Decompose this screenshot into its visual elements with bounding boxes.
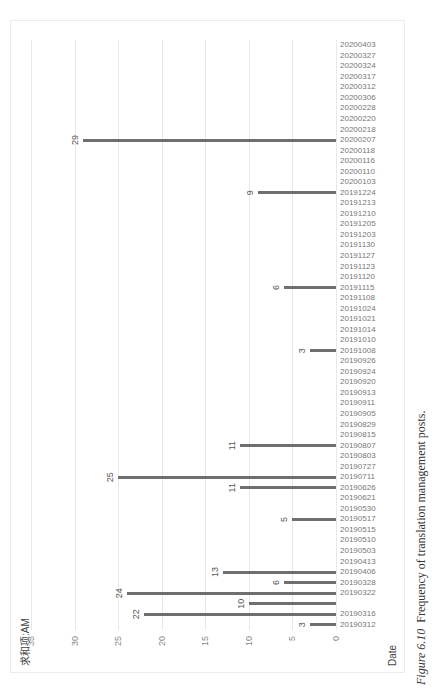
x-tick-label: 20191213 bbox=[340, 198, 376, 207]
gridline bbox=[205, 40, 206, 630]
gridline bbox=[118, 40, 119, 630]
gridline bbox=[31, 40, 32, 630]
bar-value-label: 5 bbox=[279, 517, 289, 522]
y-tick-label: 0 bbox=[331, 636, 341, 641]
x-tick-label: 20200324 bbox=[340, 61, 376, 70]
plot-area: 0510152025303532019031222201903161024201… bbox=[31, 40, 336, 630]
bar bbox=[284, 286, 336, 289]
x-tick-label: 20190621 bbox=[340, 493, 376, 502]
bar bbox=[83, 139, 336, 142]
x-tick-label: 20191127 bbox=[340, 251, 375, 260]
x-tick-label: 20200116 bbox=[340, 156, 375, 165]
y-tick-label: 35 bbox=[26, 636, 36, 646]
x-tick-label: 20191120 bbox=[340, 272, 375, 281]
chart-stage: 求和项:AM Post counts 051015202530353201903… bbox=[10, 20, 405, 673]
x-tick-label: 20200306 bbox=[340, 93, 376, 102]
x-tick-label: 20190406 bbox=[340, 567, 376, 576]
bar-value-label: 13 bbox=[210, 567, 220, 577]
x-tick-label: 20191010 bbox=[340, 335, 376, 344]
x-tick-label: 20191205 bbox=[340, 219, 376, 228]
x-tick-label: 20191224 bbox=[340, 188, 376, 197]
bar-value-label: 6 bbox=[271, 285, 281, 290]
bar bbox=[118, 476, 336, 479]
x-tick-label: 20200327 bbox=[340, 51, 376, 60]
bar-value-label: 25 bbox=[105, 472, 115, 482]
x-tick-label: 20200103 bbox=[340, 177, 376, 186]
gridline bbox=[162, 40, 163, 630]
x-tick-label: 20190711 bbox=[340, 472, 375, 481]
bar-value-label: 11 bbox=[227, 441, 237, 450]
bar-value-label: 22 bbox=[131, 609, 141, 619]
bar-value-label: 3 bbox=[297, 622, 307, 627]
bar-value-label: 3 bbox=[297, 348, 307, 353]
x-tick-label: 20200218 bbox=[340, 125, 376, 134]
gridline bbox=[292, 40, 293, 630]
x-tick-label: 20191024 bbox=[340, 304, 376, 313]
bar bbox=[292, 518, 336, 521]
gridline bbox=[75, 40, 76, 630]
bar-value-label: 24 bbox=[114, 588, 124, 598]
x-tick-label: 20190626 bbox=[340, 483, 376, 492]
bar bbox=[258, 191, 336, 194]
x-tick-label: 20190829 bbox=[340, 420, 376, 429]
y-tick-label: 20 bbox=[157, 636, 167, 646]
bar bbox=[144, 613, 336, 616]
x-tick-label: 20191021 bbox=[340, 314, 376, 323]
bar bbox=[310, 623, 336, 626]
x-tick-label: 20191115 bbox=[340, 283, 374, 292]
x-tick-label: 20190503 bbox=[340, 546, 376, 555]
bar-value-label: 9 bbox=[245, 190, 255, 195]
bar bbox=[284, 581, 336, 584]
bar bbox=[127, 592, 336, 595]
x-tick-label: 20190913 bbox=[340, 388, 376, 397]
x-tick-label: 20190803 bbox=[340, 451, 376, 460]
x-tick-label: 20190413 bbox=[340, 557, 376, 566]
bar-value-label: 11 bbox=[227, 483, 237, 492]
x-tick-label: 20191014 bbox=[340, 325, 376, 334]
x-tick-label: 20190926 bbox=[340, 356, 376, 365]
x-axis-title: Date bbox=[387, 645, 398, 666]
bar-value-label: 6 bbox=[271, 580, 281, 585]
x-tick-label: 20191123 bbox=[340, 262, 375, 271]
figure-caption: Figure 6.10 Frequency of translation man… bbox=[411, 380, 431, 690]
x-tick-label: 20190911 bbox=[340, 398, 375, 407]
x-tick-label: 20191203 bbox=[340, 230, 376, 239]
x-tick-label: 20200207 bbox=[340, 135, 376, 144]
gridline bbox=[336, 40, 337, 630]
x-tick-label: 20200110 bbox=[340, 167, 375, 176]
gridline bbox=[249, 40, 250, 630]
x-tick-label: 20190905 bbox=[340, 409, 376, 418]
bar-value-label: 10 bbox=[236, 599, 246, 609]
x-tick-label: 20200118 bbox=[340, 146, 375, 155]
x-tick-label: 20191210 bbox=[340, 209, 376, 218]
bar bbox=[240, 486, 336, 489]
x-tick-label: 20190510 bbox=[340, 535, 376, 544]
x-tick-label: 20200220 bbox=[340, 114, 376, 123]
x-tick-label: 20190312 bbox=[340, 620, 376, 629]
bar bbox=[223, 571, 336, 574]
x-tick-label: 20191008 bbox=[340, 346, 376, 355]
x-tick-label: 20191108 bbox=[340, 293, 375, 302]
x-tick-label: 20190316 bbox=[340, 609, 376, 618]
bar-value-label: 29 bbox=[70, 135, 80, 145]
x-tick-label: 20190530 bbox=[340, 504, 376, 513]
caption-text: Frequency of translation management post… bbox=[414, 411, 428, 623]
x-tick-label: 20190807 bbox=[340, 441, 376, 450]
y-tick-label: 30 bbox=[70, 636, 80, 646]
x-tick-label: 20200312 bbox=[340, 82, 376, 91]
x-tick-label: 20200228 bbox=[340, 103, 376, 112]
bar bbox=[240, 444, 336, 447]
x-tick-label: 20191130 bbox=[340, 240, 375, 249]
x-tick-label: 20190727 bbox=[340, 462, 376, 471]
x-tick-label: 20190517 bbox=[340, 514, 376, 523]
bar bbox=[310, 349, 336, 352]
y-tick-label: 10 bbox=[244, 636, 254, 646]
y-tick-label: 25 bbox=[113, 636, 123, 646]
x-tick-label: 20200317 bbox=[340, 72, 376, 81]
x-tick-label: 20200403 bbox=[340, 40, 376, 49]
y-tick-label: 5 bbox=[287, 636, 297, 641]
x-tick-label: 20190920 bbox=[340, 377, 376, 386]
x-tick-label: 20190515 bbox=[340, 525, 376, 534]
bar bbox=[249, 602, 336, 605]
x-tick-label: 20190322 bbox=[340, 588, 376, 597]
